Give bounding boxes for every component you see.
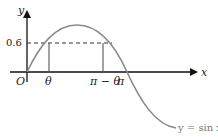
tick-pi-minus-theta: π − θ [89, 75, 120, 88]
y-axis-label: y [17, 4, 25, 17]
x-axis-label: x [201, 66, 208, 79]
curve-label: y = sin x [177, 122, 218, 133]
sine-graph: y x 0.6 O θ π − θ π y = sin x [0, 0, 218, 137]
tick-pi: π [116, 75, 125, 88]
origin-label: O [16, 75, 25, 88]
tick-theta: θ [45, 75, 52, 88]
y-tick-0.6: 0.6 [6, 37, 22, 48]
